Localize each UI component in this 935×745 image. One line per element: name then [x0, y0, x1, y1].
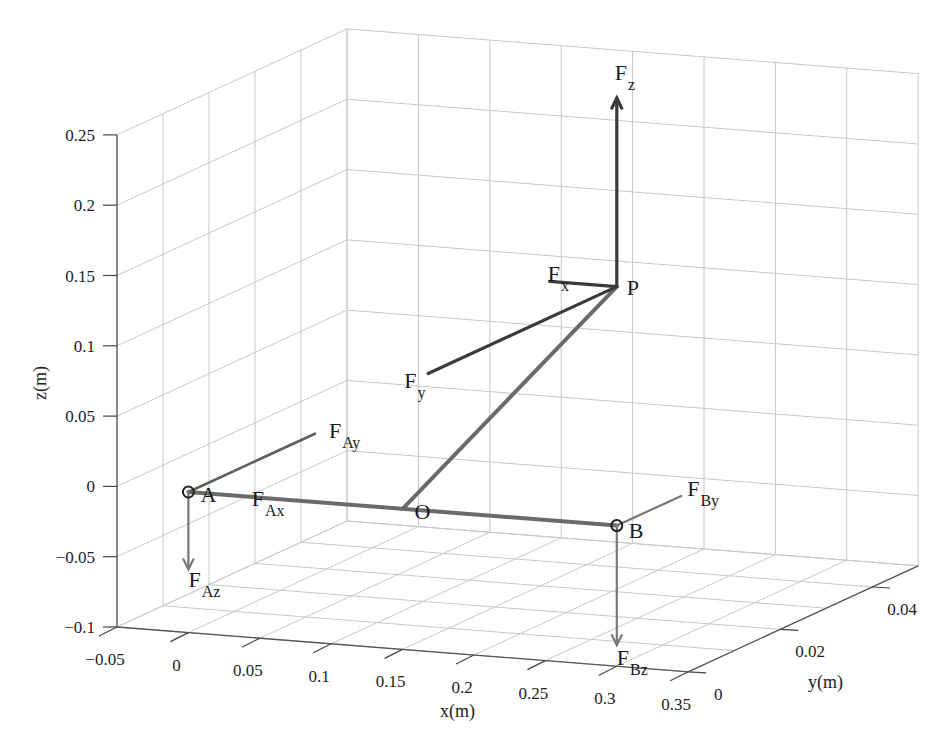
- y-axis-label: y(m): [808, 672, 843, 693]
- x-tick: [527, 661, 545, 670]
- force-label-FBy: FBy: [687, 476, 719, 510]
- x-tick-label: 0: [172, 656, 181, 675]
- floor-grid-line: [255, 563, 826, 608]
- x-tick: [313, 644, 331, 653]
- x-tick-label: 0.25: [519, 684, 549, 703]
- z-tick-label: 0: [87, 477, 96, 496]
- z-tick-label: 0.05: [65, 407, 95, 426]
- x-tick-label: 0.2: [451, 678, 472, 697]
- force-label-FAz: FAz: [188, 567, 220, 600]
- y-tick: [780, 629, 798, 630]
- y-tick-label: 0.04: [887, 600, 917, 619]
- force-label-Fy: Fy: [404, 368, 425, 402]
- 3d-force-diagram-plot: −0.0500.050.10.150.20.250.30.3500.020.04…: [0, 0, 935, 745]
- point-label-B: B: [629, 518, 644, 543]
- y-tick: [872, 587, 890, 588]
- left-grid-line: [117, 310, 347, 416]
- force-label-Fx: Fx: [548, 261, 569, 294]
- left-grid-line: [117, 29, 347, 135]
- y-tick-label: 0.02: [795, 642, 825, 661]
- z-tick-label: 0.15: [65, 267, 95, 286]
- force-vector-Fy: [428, 287, 617, 374]
- z-tick-label: −0.1: [64, 618, 95, 637]
- x-tick: [242, 638, 260, 647]
- x-tick: [99, 627, 117, 636]
- x-tick: [456, 655, 474, 664]
- force-label-FBz: FBz: [617, 645, 648, 678]
- x-tick-label: −0.05: [85, 650, 124, 669]
- point-label-O: O: [415, 499, 431, 524]
- x-tick-label: 0.35: [661, 695, 691, 714]
- z-tick-label: 0.2: [74, 196, 95, 215]
- z-tick-label: −0.05: [56, 548, 95, 567]
- x-tick: [170, 633, 188, 642]
- x-tick-label: 0.1: [309, 667, 330, 686]
- y-tick-label: 0: [714, 685, 723, 704]
- z-axis-label: z(m): [30, 366, 51, 400]
- z-tick-label: 0.1: [74, 337, 95, 356]
- member-OP: [403, 287, 617, 509]
- left-grid-line: [117, 99, 347, 205]
- label-layer: FzFxFyFAyFAxFAzFByFBzAOBP: [188, 60, 719, 678]
- point-label-P: P: [627, 275, 639, 300]
- force-vector-FBy: [617, 496, 681, 526]
- left-grid-line: [117, 170, 347, 276]
- x-tick: [599, 666, 617, 675]
- x-tick-label: 0.3: [594, 689, 615, 708]
- grid-layer: [117, 29, 918, 672]
- force-label-FAx: FAx: [252, 486, 285, 519]
- floor-grid-line: [301, 542, 872, 587]
- point-label-A: A: [200, 482, 216, 507]
- x-tick-label: 0.15: [376, 672, 406, 691]
- x-axis-label: x(m): [440, 701, 475, 722]
- floor-grid-line: [209, 585, 780, 630]
- z-tick-label: 0.25: [65, 126, 95, 145]
- x-tick-label: 0.05: [233, 661, 263, 680]
- y-tick: [688, 672, 706, 673]
- force-label-FAy: FAy: [329, 418, 360, 452]
- x-tick: [385, 649, 403, 658]
- left-grid-line: [117, 240, 347, 346]
- data-layer: [183, 98, 681, 645]
- x-tick: [670, 672, 688, 681]
